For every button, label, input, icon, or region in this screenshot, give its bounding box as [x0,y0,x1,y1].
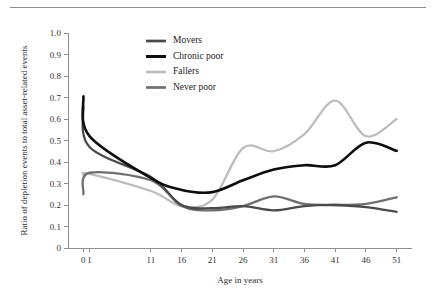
x-tick-label: 11 [147,255,156,265]
line-chart: 00.10.20.30.40.50.60.70.80.91.0011116212… [0,0,433,302]
y-tick-label: 0.6 [50,114,62,124]
y-axis-title: Ratio of depletion events to total asset… [19,45,29,236]
series-line-chronic-poor [83,96,397,192]
y-tick-label: 0 [57,243,62,253]
y-tick-label: 1.0 [50,28,62,38]
y-tick-label: 0.3 [50,179,62,189]
figure-container: 00.10.20.30.40.50.60.70.80.91.0011116212… [0,0,433,302]
x-tick-label: 26 [239,255,249,265]
y-tick-label: 0.4 [50,157,62,167]
x-tick-label: 51 [392,255,401,265]
y-tick-label: 0.5 [50,136,62,146]
x-axis-title: Age in years [217,275,263,285]
x-tick-label: 36 [300,255,310,265]
x-tick-label: 21 [208,255,217,265]
legend-label-never-poor: Never poor [173,82,217,92]
x-tick-label: 16 [177,255,187,265]
y-tick-label: 0.1 [50,222,61,232]
y-tick-label: 0.7 [50,93,62,103]
y-tick-label: 0.2 [50,200,61,210]
x-tick-label: 46 [361,255,371,265]
y-tick-label: 0.8 [50,71,62,81]
x-tick-label: 0 [81,255,86,265]
series-line-movers [83,106,397,212]
x-tick-label: 31 [269,255,278,265]
y-tick-label: 0.9 [50,50,62,60]
legend-label-chronic-poor: Chronic poor [173,51,224,61]
legend-label-fallers: Fallers [173,66,199,76]
legend-label-movers: Movers [173,35,202,45]
x-tick-label: 41 [331,255,340,265]
x-tick-label: 1 [87,255,92,265]
